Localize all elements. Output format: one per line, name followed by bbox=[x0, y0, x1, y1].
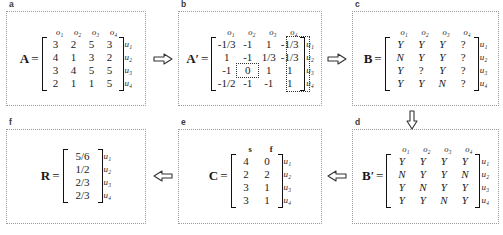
row-label-u4: u₄ bbox=[306, 77, 314, 90]
cell: 2 bbox=[65, 38, 83, 51]
cell: Y bbox=[390, 64, 411, 77]
cell: Y bbox=[454, 181, 475, 194]
row-label-u2: u₂ bbox=[481, 168, 489, 181]
cell: 5/6 bbox=[68, 150, 98, 163]
col-header-o3: o₃ bbox=[436, 27, 457, 37]
col-header-f: f bbox=[261, 144, 282, 154]
cell: Y bbox=[454, 194, 475, 207]
cell: Y bbox=[432, 64, 453, 77]
col-header-o2: o₂ bbox=[69, 27, 87, 37]
cell: Y bbox=[433, 181, 454, 194]
matrix-Aprime: o₁ o₂ o₃ o₄ -1/3 -1 1 -1/3 1 -1 1/3 bbox=[211, 27, 314, 91]
matrix-C-row-labels: u₁ u₂ u₃ u₄ bbox=[283, 154, 292, 208]
matrix-Bprime-col-headers: o₁ o₂ o₃ o₄ bbox=[386, 144, 489, 154]
col-header-o2: o₂ bbox=[415, 27, 436, 37]
matrix-A-row-labels: u₁ u₂ u₃ u₄ bbox=[124, 37, 133, 91]
panel-label-b: b bbox=[181, 0, 186, 9]
panel-label-c: c bbox=[355, 0, 360, 9]
cell: 1 bbox=[257, 181, 278, 194]
row-label-u1: u₁ bbox=[481, 155, 489, 168]
cell: Y bbox=[391, 155, 412, 168]
cell: Y bbox=[411, 51, 432, 64]
matrix-Bprime-cells: Y Y Y Y N Y Y N Y N Y Y Y Y N bbox=[391, 154, 475, 208]
matrix-R-body: 5/6 1/2 2/3 2/3 u₁ u₂ u₃ u₄ bbox=[63, 149, 112, 203]
matrix-R-cells: 5/6 1/2 2/3 2/3 bbox=[68, 149, 98, 203]
row-label-u1: u₁ bbox=[306, 38, 314, 51]
panel-a: a A= o₁ o₂ o₃ o₄ 3 2 5 3 4 bbox=[6, 11, 146, 106]
col-header-o1: o₁ bbox=[220, 27, 241, 37]
col-header-o3: o₃ bbox=[262, 27, 283, 37]
matrix-A: o₁ o₂ o₃ o₄ 3 2 5 3 4 1 3 2 bbox=[42, 27, 133, 91]
col-header-o4: o₄ bbox=[105, 27, 123, 37]
row-label-u4: u₄ bbox=[104, 189, 112, 202]
matrix-B-body: Y Y Y ? N Y Y ? Y ? Y ? Y Y N bbox=[385, 37, 488, 91]
cell-highlighted: 0 bbox=[237, 64, 258, 77]
cell: 1 bbox=[258, 64, 279, 77]
cell: 3 bbox=[236, 181, 257, 194]
arrow-b-to-c bbox=[327, 53, 347, 65]
cell: 5 bbox=[83, 64, 101, 77]
cell: -1/3 bbox=[279, 38, 300, 51]
cell: ? bbox=[453, 77, 474, 90]
matrix-C: s f 4 0 2 2 3 1 3 1 bbox=[231, 144, 292, 208]
cell: N bbox=[412, 181, 433, 194]
row-label-u4: u₄ bbox=[284, 194, 292, 207]
cell: 2 bbox=[257, 168, 278, 181]
matrix-Bprime-body: Y Y Y Y N Y Y N Y N Y Y Y Y N bbox=[386, 154, 489, 208]
cell: 4 bbox=[65, 64, 83, 77]
cell: 3 bbox=[47, 38, 65, 51]
col-header-o2: o₂ bbox=[416, 144, 437, 154]
panel-label-a: a bbox=[9, 0, 14, 9]
cell: Y bbox=[411, 77, 432, 90]
equation-b: A′= o₁ o₂ o₃ o₄ -1/3 -1 1 -1/3 1 bbox=[186, 27, 314, 91]
panel-c: c B= o₁ o₂ o₃ o₄ Y Y Y ? N bbox=[352, 11, 499, 106]
arrow-e-to-f bbox=[153, 170, 173, 182]
cell: 1 bbox=[65, 77, 83, 90]
cell: ? bbox=[453, 64, 474, 77]
cell: 4 bbox=[47, 51, 65, 64]
cell: Y bbox=[433, 155, 454, 168]
panel-b: b A′= o₁ o₂ o₃ o₄ -1/3 -1 1 -1/3 bbox=[178, 11, 322, 106]
cell: -1/3 bbox=[279, 51, 300, 64]
cell: Y bbox=[412, 168, 433, 181]
cell: N bbox=[432, 77, 453, 90]
cell: -1/2 bbox=[216, 77, 237, 90]
col-header-o4: o₄ bbox=[283, 27, 304, 37]
cell: 5 bbox=[83, 38, 101, 51]
col-header-o1: o₁ bbox=[51, 27, 69, 37]
row-label-u3: u₃ bbox=[481, 181, 489, 194]
cell: Y bbox=[391, 194, 412, 207]
row-label-u3: u₃ bbox=[284, 181, 292, 194]
panel-d: d B′= o₁ o₂ o₃ o₄ Y Y Y Y N bbox=[352, 129, 499, 224]
cell: ? bbox=[411, 64, 432, 77]
equation-f: R= 5/6 1/2 2/3 2/3 u₁ u₂ u₃ u₄ bbox=[41, 149, 111, 203]
matrix-C-col-headers: s f bbox=[231, 144, 292, 154]
figure-root: a A= o₁ o₂ o₃ o₄ 3 2 5 3 4 bbox=[0, 0, 503, 235]
col-header-o1: o₁ bbox=[394, 27, 415, 37]
matrix-B-cells: Y Y Y ? N Y Y ? Y ? Y ? Y Y N bbox=[390, 37, 474, 91]
cell: -1 bbox=[237, 38, 258, 51]
col-header-s: s bbox=[240, 144, 261, 154]
cell: 2/3 bbox=[68, 176, 98, 189]
arrow-a-to-b bbox=[153, 53, 173, 65]
cell: -1 bbox=[258, 77, 279, 90]
row-label-u2: u₂ bbox=[306, 51, 314, 64]
matrix-A-col-headers: o₁ o₂ o₃ o₄ bbox=[42, 27, 133, 37]
row-label-u3: u₃ bbox=[306, 64, 314, 77]
cell: 2/3 bbox=[68, 189, 98, 202]
cell: 1 bbox=[65, 51, 83, 64]
cell: -1 bbox=[237, 77, 258, 90]
row-label-u1: u₁ bbox=[284, 155, 292, 168]
cell: 1 bbox=[257, 194, 278, 207]
row-label-u2: u₂ bbox=[125, 51, 133, 64]
equation-d: B′= o₁ o₂ o₃ o₄ Y Y Y Y N Y bbox=[362, 144, 489, 208]
cell: N bbox=[433, 194, 454, 207]
cell: Y bbox=[454, 155, 475, 168]
matrix-B-col-headers: o₁ o₂ o₃ o₄ bbox=[385, 27, 488, 37]
cell: 1 bbox=[279, 64, 300, 77]
matrix-B: o₁ o₂ o₃ o₄ Y Y Y ? N Y Y ? bbox=[385, 27, 488, 91]
col-header-o4: o₄ bbox=[457, 27, 478, 37]
cell: Y bbox=[412, 194, 433, 207]
panel-f: f R= 5/6 1/2 2/3 2/3 u₁ u₂ u₃ bbox=[6, 129, 146, 224]
cell: 3 bbox=[236, 194, 257, 207]
